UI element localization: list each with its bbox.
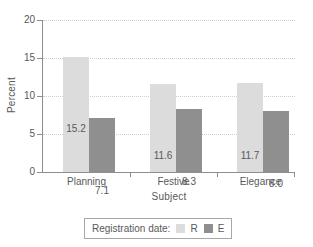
y-tick-label-0: 0 <box>5 167 35 177</box>
chart-legend: Registration date: R E <box>84 218 232 239</box>
bar-festive-e <box>176 109 202 172</box>
bar-chart: Percent 20 15 10 5 0 15.2 7.1 11.6 8.3 1… <box>0 0 313 247</box>
legend-entry-r: R <box>176 223 197 234</box>
y-axis-spine <box>42 20 43 173</box>
legend-label-r: R <box>190 223 197 234</box>
y-tick-label-5: 5 <box>5 129 35 139</box>
bar-elegance-e <box>263 111 289 172</box>
legend-swatch-r <box>176 224 185 233</box>
gridline-20 <box>43 20 295 21</box>
x-category-label-elegance: Elegance <box>217 176 304 188</box>
bar-value-festive-r: 11.6 <box>143 150 183 161</box>
x-category-label-festive: Festive <box>130 176 217 188</box>
y-tick-label-10: 10 <box>5 91 35 101</box>
x-axis-spine <box>43 172 295 173</box>
legend-label-e: E <box>218 223 225 234</box>
x-axis-title: Subject <box>43 191 295 202</box>
bar-value-elegance-r: 11.7 <box>230 150 270 161</box>
y-tick-label-20: 20 <box>5 15 35 25</box>
x-category-label-planning: Planning <box>43 176 130 188</box>
legend-entry-e: E <box>204 223 225 234</box>
plot-area: 15.2 7.1 11.6 8.3 11.7 8.0 <box>43 20 295 172</box>
legend-title: Registration date: <box>92 223 170 234</box>
y-axis-tick-labels: 20 15 10 5 0 <box>0 0 35 200</box>
legend-swatch-e <box>204 224 213 233</box>
y-tick-label-15: 15 <box>5 53 35 63</box>
bar-planning-r <box>63 57 89 173</box>
bar-value-planning-r: 15.2 <box>56 123 96 134</box>
